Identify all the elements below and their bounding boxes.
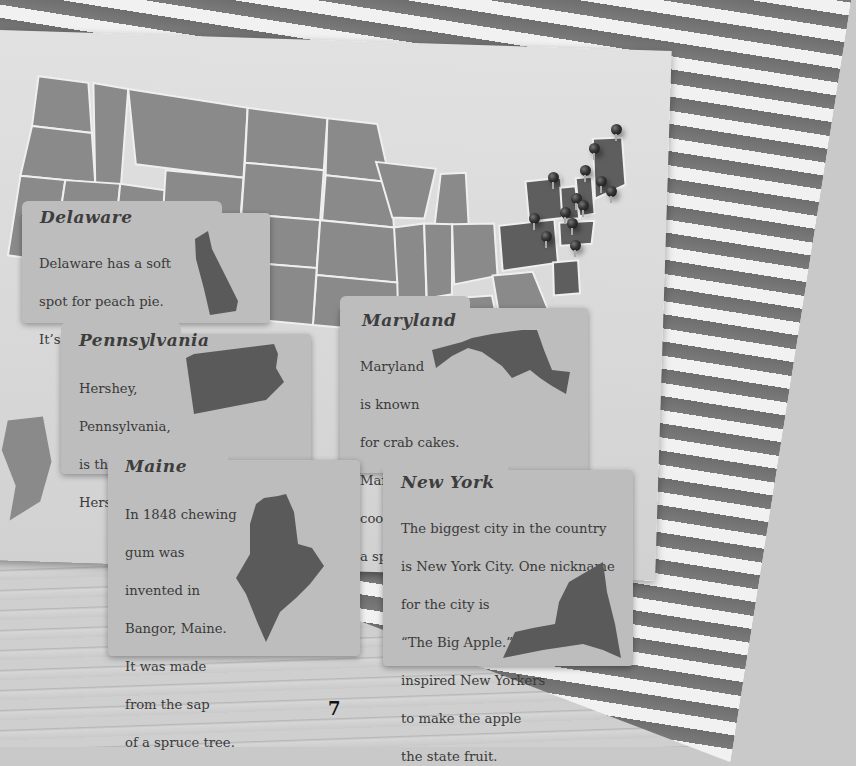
card-line: spot for peach pie. bbox=[39, 292, 196, 311]
map-pin bbox=[596, 176, 607, 187]
map-pin bbox=[611, 124, 622, 135]
card-title: Delaware bbox=[40, 207, 132, 227]
map-pin bbox=[567, 218, 578, 229]
card-line: from the sap bbox=[125, 695, 237, 714]
map-pin bbox=[578, 200, 589, 211]
map-pin bbox=[580, 165, 591, 176]
pennsylvania-silhouette-icon bbox=[186, 344, 286, 414]
card-line: Bangor, Maine. bbox=[125, 619, 237, 638]
map-pin bbox=[529, 213, 540, 224]
maryland-silhouette-icon bbox=[432, 330, 572, 398]
delaware-card: Delaware Delaware has a soft spot for pe… bbox=[22, 213, 270, 323]
map-pin bbox=[589, 143, 600, 154]
map-pin bbox=[548, 172, 559, 183]
card-title: Maine bbox=[125, 456, 187, 476]
card-title: New York bbox=[401, 472, 495, 492]
card-line: gum was bbox=[125, 543, 237, 562]
card-line: In 1848 chewing bbox=[125, 505, 237, 524]
card-line: Delaware has a soft bbox=[39, 254, 196, 273]
map-pin bbox=[541, 231, 552, 242]
card-line: invented in bbox=[125, 581, 237, 600]
card-title: Maryland bbox=[362, 310, 456, 330]
card-line: It was made bbox=[125, 657, 237, 676]
card-body: In 1848 chewing gum was invented in Bang… bbox=[125, 486, 237, 766]
delaware-silhouette-icon bbox=[190, 229, 242, 315]
map-pin bbox=[570, 240, 581, 251]
card-line: for crab cakes. bbox=[360, 433, 519, 452]
page-number: 7 bbox=[328, 698, 341, 719]
map-pin bbox=[560, 207, 571, 218]
new-york-silhouette-icon bbox=[503, 562, 623, 660]
card-line: the state fruit. bbox=[401, 747, 615, 766]
maine-silhouette-icon bbox=[236, 494, 328, 642]
map-pin bbox=[606, 186, 617, 197]
new-york-card: New York The biggest city in the country… bbox=[383, 470, 633, 666]
card-line: to make the apple bbox=[401, 709, 615, 728]
maryland-card: Maryland Maryland is known for crab cake… bbox=[340, 308, 588, 473]
card-line: Pennsylvania, bbox=[79, 417, 219, 436]
card-line: of a spruce tree. bbox=[125, 733, 237, 752]
maine-card: Maine In 1848 chewing gum was invented i… bbox=[108, 460, 360, 656]
card-line: inspired New Yorkers bbox=[401, 671, 615, 690]
card-line: The biggest city in the country bbox=[401, 519, 615, 538]
